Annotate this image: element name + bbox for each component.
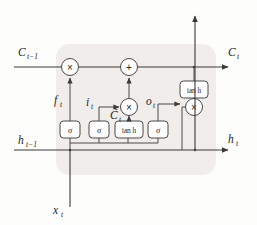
label-input-x-main: x <box>52 204 59 216</box>
label-hidden-out-main: h <box>228 133 234 145</box>
label-cell-state-out-sub: t <box>237 52 240 61</box>
sigma-output-box: σ <box>148 121 168 138</box>
label-input-x: x t <box>52 204 64 219</box>
label-hidden-in-main: h <box>18 134 24 146</box>
mul-output-node: × <box>186 99 203 116</box>
label-cell-state-out: C t <box>228 46 240 61</box>
sigma-input-box: σ <box>89 121 109 138</box>
add-cell-node: + <box>121 59 138 76</box>
label-input-gate-main: i <box>86 96 89 108</box>
mul-forget-node: × <box>62 59 79 76</box>
tanh-candidate-label: tan h <box>122 127 137 135</box>
label-hidden-out-sub: t <box>236 139 239 148</box>
mul-input-symbol: × <box>126 102 132 113</box>
label-hidden-in: h t−1 <box>18 134 37 149</box>
add-cell-symbol: + <box>126 62 132 73</box>
label-cell-state-in: C t−1 <box>18 46 38 61</box>
label-cell-state-in-sub: t−1 <box>27 52 38 61</box>
label-hidden-out: h t <box>228 133 239 148</box>
label-candidate-main: C̃ <box>110 108 118 121</box>
tanh-cell-label: tan h <box>187 87 202 95</box>
label-hidden-in-sub: t−1 <box>26 140 37 149</box>
label-cell-state-in-main: C <box>18 46 26 58</box>
label-output-gate-main: o <box>146 95 152 107</box>
mul-input-node: × <box>121 99 138 116</box>
lstm-cell-diagram: σ σ tan h σ tan h <box>0 0 257 225</box>
label-input-x-sub: t <box>61 210 64 219</box>
sigma-forget-box: σ <box>60 121 80 138</box>
label-cell-state-out-main: C <box>228 46 236 58</box>
mul-output-symbol: × <box>191 102 197 113</box>
mul-forget-symbol: × <box>67 62 73 73</box>
tanh-cell-box: tan h <box>180 81 208 98</box>
